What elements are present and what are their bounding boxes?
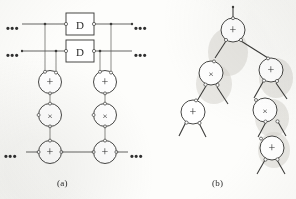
tree-leftleft-add-op: +	[190, 105, 197, 119]
multiplier-left: ×	[37, 102, 61, 128]
figure-svg: .wire{stroke:#4a4a48;stroke-width:.85;fi…	[0, 0, 296, 199]
ellipsis-left-bottom: •••	[4, 146, 17, 164]
adder-right-upper: +	[94, 70, 117, 95]
ellipsis-left-top: •••	[6, 18, 19, 36]
ellipsis-right-top: •••	[134, 18, 147, 36]
tree-rightright-add-op: +	[269, 141, 276, 155]
panel-a-group: D D	[21, 13, 133, 164]
adder-right-upper-op: +	[102, 75, 109, 89]
tree-rightleft-mul-op: ×	[262, 106, 267, 116]
caption-a: (a)	[57, 178, 68, 188]
delay-upper-label: D	[76, 19, 84, 31]
adder-right-lower: +	[92, 139, 118, 163]
multiplier-right-op: ×	[102, 111, 107, 121]
adder-left-upper: +	[39, 70, 62, 95]
delay-block-upper: D	[64, 13, 95, 35]
delay-block-lower: D	[64, 40, 95, 62]
panel-b-group: + × +	[179, 6, 293, 174]
adder-right-lower-op: +	[102, 145, 109, 159]
adder-left-lower-op: +	[47, 145, 54, 159]
tree-right-add-op: +	[268, 63, 275, 77]
ellipsis-right-middle: •••	[134, 45, 147, 63]
delay-lower-label: D	[76, 46, 84, 58]
ellipsis-right-bottom: •••	[130, 146, 143, 164]
tree-leftleft-add: +	[181, 99, 205, 125]
caption-b: (b)	[212, 178, 223, 188]
tree-root-op: +	[230, 23, 237, 37]
ellipsis-left-middle: •••	[6, 45, 19, 63]
tree-root: +	[221, 17, 245, 42]
adder-left-upper-op: +	[47, 75, 54, 89]
multiplier-right: ×	[92, 102, 116, 128]
adder-left-lower: +	[37, 139, 63, 163]
tree-left-mul-op: ×	[208, 69, 213, 79]
multiplier-left-op: ×	[47, 111, 52, 121]
figure-canvas: .wire{stroke:#4a4a48;stroke-width:.85;fi…	[0, 0, 296, 199]
